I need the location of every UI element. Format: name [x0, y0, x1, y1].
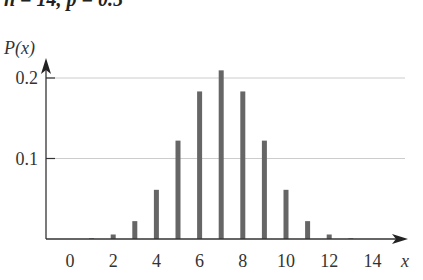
x-tick-label: 6	[195, 251, 204, 271]
gridlines	[46, 78, 405, 159]
x-tick-label: 14	[363, 251, 381, 271]
bar-x-5	[176, 141, 181, 239]
x-tick-label: 0	[66, 251, 75, 271]
bar-x-6	[197, 91, 202, 239]
tick-labels: 0.10.202468101214P(x)x	[3, 38, 409, 271]
bar-x-2	[111, 234, 116, 239]
axes	[41, 58, 408, 244]
x-tick-label: 12	[320, 251, 338, 271]
bars	[89, 70, 353, 239]
bar-x-4	[154, 190, 159, 239]
x-tick-label: 2	[109, 251, 118, 271]
x-tick-label: 8	[238, 251, 247, 271]
bar-x-3	[132, 221, 137, 239]
y-axis-label: P(x)	[3, 38, 35, 59]
y-tick-label: 0.2	[16, 68, 39, 88]
bar-x-8	[240, 91, 245, 239]
y-tick-label: 0.1	[16, 149, 39, 169]
x-axis-label: x	[400, 251, 409, 271]
bar-x-9	[262, 141, 267, 239]
bar-x-7	[219, 70, 224, 239]
bar-x-10	[284, 190, 289, 239]
bar-x-11	[305, 221, 310, 239]
binomial-bar-chart: 0.10.202468101214P(x)x	[0, 0, 423, 280]
x-tick-label: 4	[152, 251, 161, 271]
x-tick-label: 10	[277, 251, 295, 271]
bar-x-12	[327, 234, 332, 239]
